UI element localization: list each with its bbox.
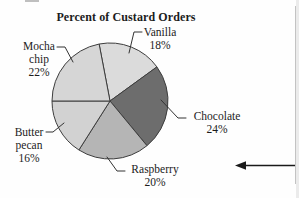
page-edge-smudge bbox=[25, 0, 39, 2]
slice-label-raspberry-name: Raspberry bbox=[131, 163, 178, 176]
slice-label-butter-pecan-percent: 16% bbox=[15, 152, 44, 165]
slice-label-mocha-chip-percent: 22% bbox=[23, 66, 55, 79]
chart-title: Percent of Custard Orders bbox=[56, 10, 195, 25]
page-right-band bbox=[296, 0, 299, 198]
slice-label-mocha-chip-name: Mocha chip bbox=[23, 40, 55, 66]
pie-slices-group bbox=[52, 43, 168, 159]
slice-label-chocolate-name: Chocolate bbox=[194, 110, 241, 123]
page-right-border bbox=[295, 6, 297, 184]
slice-label-chocolate-percent: 24% bbox=[194, 123, 241, 136]
slice-label-raspberry-percent: 20% bbox=[131, 176, 178, 189]
slice-label-butter-pecan-name: Butter pecan bbox=[15, 126, 44, 152]
slice-label-vanilla-name: Vanilla bbox=[144, 26, 177, 39]
slice-label-chocolate: Chocolate 24% bbox=[194, 110, 241, 136]
slice-label-butter-pecan: Butter pecan 16% bbox=[15, 126, 44, 165]
slice-label-vanilla-percent: 18% bbox=[144, 39, 177, 52]
slice-label-vanilla: Vanilla 18% bbox=[144, 26, 177, 52]
slice-label-mocha-chip: Mocha chip 22% bbox=[23, 40, 55, 79]
left-arrow-icon bbox=[235, 161, 299, 169]
slice-label-raspberry: Raspberry 20% bbox=[131, 163, 178, 189]
figure-canvas: Percent of Custard Orders Vanilla 18% Mo… bbox=[0, 0, 299, 198]
